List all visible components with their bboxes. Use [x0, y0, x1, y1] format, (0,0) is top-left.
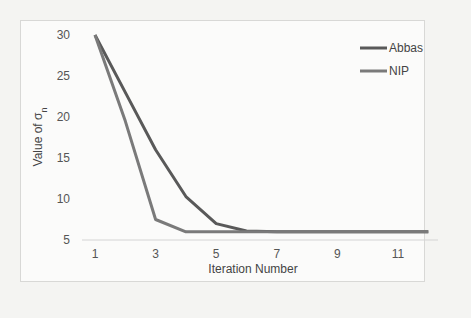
y-tick-label: 10	[57, 192, 71, 206]
legend-label: Abbas	[389, 41, 423, 55]
y-tick-label: 15	[57, 151, 71, 165]
series-line-abbas	[95, 35, 428, 232]
legend: AbbasNIP	[360, 41, 423, 78]
y-tick-label: 30	[57, 28, 71, 42]
x-tick-label: 11	[392, 247, 405, 261]
x-tick-label: 7	[273, 247, 280, 261]
y-axis-title: Value of σn	[31, 108, 49, 167]
x-tick-label: 1	[92, 247, 99, 261]
legend-label: NIP	[389, 64, 409, 78]
x-tick-label: 9	[334, 247, 341, 261]
y-tick-label: 20	[57, 110, 71, 124]
y-tick-label: 25	[57, 69, 71, 83]
x-tick-label: 5	[213, 247, 220, 261]
series-lines	[95, 35, 428, 232]
line-chart: 51015202530 1357911 Iteration Number Val…	[0, 0, 471, 318]
series-line-nip	[95, 35, 428, 232]
y-axis-ticks: 51015202530	[57, 28, 71, 247]
x-axis-ticks: 1357911	[92, 247, 405, 261]
x-tick-label: 3	[152, 247, 159, 261]
y-tick-label: 5	[63, 233, 70, 247]
x-axis-title: Iteration Number	[208, 262, 297, 276]
